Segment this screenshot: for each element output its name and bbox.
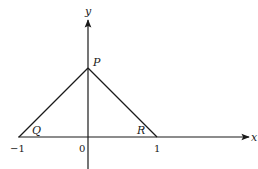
segment-QP [19,68,88,137]
tick-label-neg-one: −1 [10,143,25,154]
point-label-Q: Q [32,124,41,137]
point-label-R: R [136,124,145,137]
x-axis-label: x [251,131,258,144]
segment-PR [88,68,157,137]
tick-label-origin: 0 [79,143,85,154]
point-label-P: P [92,56,101,69]
diagram-canvas: y x P Q R −1 0 1 [0,0,258,169]
y-axis-label: y [84,5,92,18]
tick-label-one: 1 [154,143,160,154]
